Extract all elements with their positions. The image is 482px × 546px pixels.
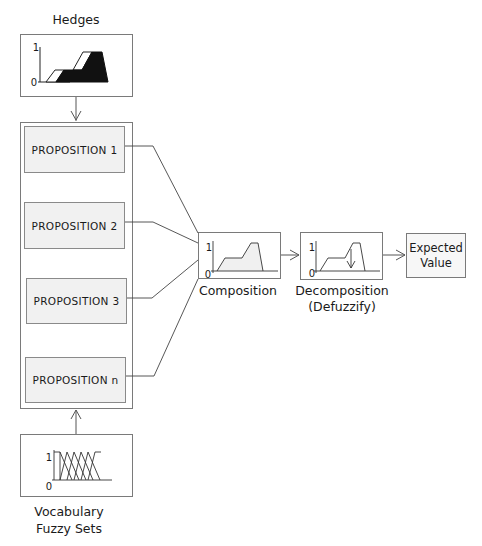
connectors-to-composition [125, 146, 198, 376]
vocabulary-chart [52, 450, 112, 480]
arrow-decomposition-to-expected-value [383, 250, 405, 260]
arrow-hedges-to-propositions [71, 97, 81, 121]
diagram-graphics [0, 0, 482, 546]
arrow-vocabulary-to-propositions [71, 410, 81, 434]
arrow-composition-to-decomposition [281, 250, 299, 260]
decomposition-chart [314, 241, 380, 273]
hedges-chart [38, 47, 108, 82]
composition-chart [211, 241, 278, 273]
